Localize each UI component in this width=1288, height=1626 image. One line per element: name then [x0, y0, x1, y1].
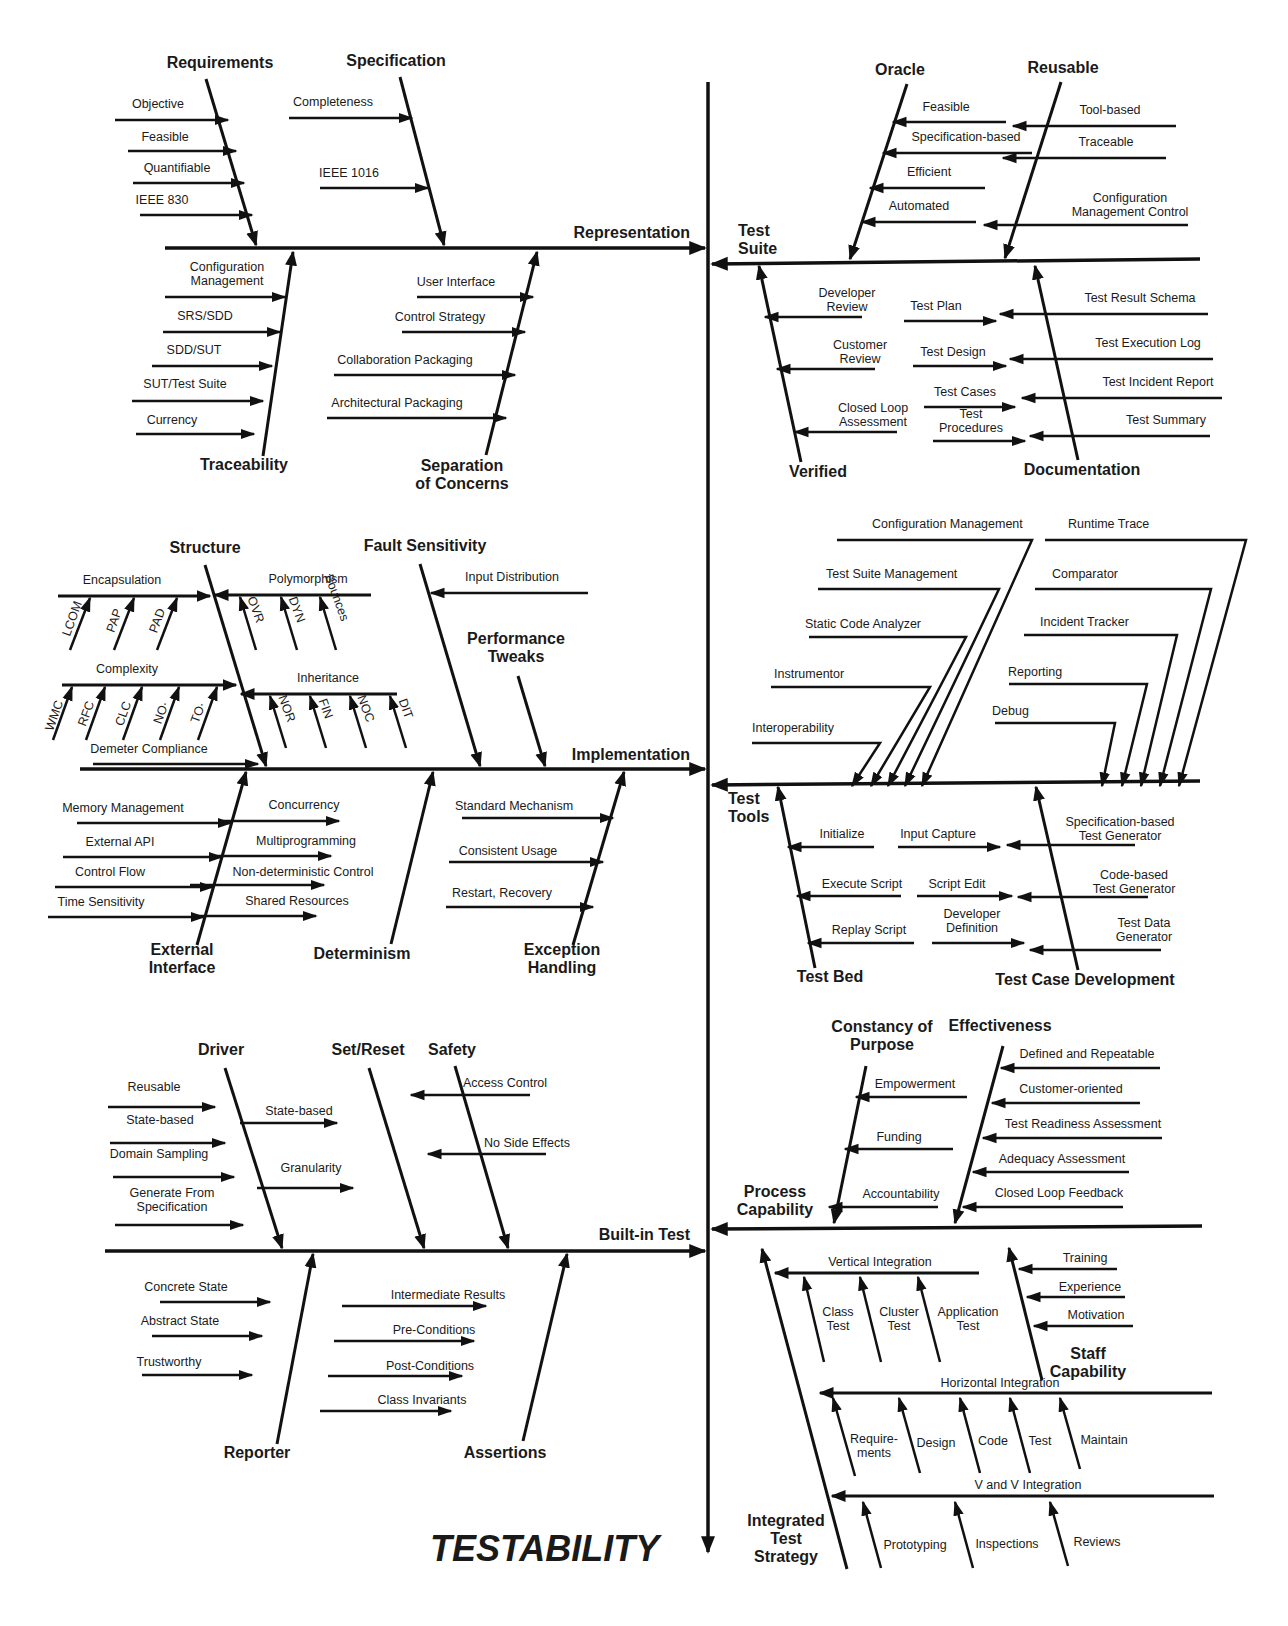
integration-twig-label: Require-ments	[850, 1432, 898, 1460]
main-bone-label-process-capability: ProcessCapability	[737, 1183, 814, 1218]
rib-label: Funding	[876, 1130, 921, 1144]
rib-label: Standard Mechanism	[455, 799, 573, 813]
bone-label-documentation: Documentation	[1024, 461, 1140, 478]
bone-fault-sensitivity	[420, 564, 480, 766]
tool-label: Debug	[992, 704, 1029, 718]
rib-label: Tool-based	[1079, 103, 1140, 117]
rib-label: Initialize	[819, 827, 864, 841]
bone-label-specification: Specification	[346, 52, 446, 69]
bone-label-determinism: Determinism	[314, 945, 411, 962]
rib-label: Closed LoopAssessment	[838, 401, 908, 429]
rib-label: Test Design	[920, 345, 985, 359]
bone-label-verified: Verified	[789, 463, 847, 480]
rib-label: Objective	[132, 97, 184, 111]
metric-twigs: LCOMPAPPADOVRDYNBouncesWMCRFCCLCNO·TO·NO…	[42, 572, 416, 748]
bone-constancy-of-purpose	[834, 1066, 866, 1223]
integration-twig-label: Reviews	[1073, 1535, 1120, 1549]
integration-twig-arrow	[960, 1398, 980, 1473]
rib-label: User Interface	[417, 275, 496, 289]
rib-label: Input Capture	[900, 827, 976, 841]
bone-reporter	[277, 1254, 313, 1444]
sub-bone-label-encapsulation: Encapsulation	[83, 573, 162, 587]
rib-label: State-based	[126, 1113, 193, 1127]
integration-twig-arrow	[1060, 1398, 1080, 1469]
metric-twig-label: DIT	[396, 697, 416, 721]
bone-label-set-reset: Set/Reset	[332, 1041, 406, 1058]
bone-label-test-case-development: Test Case Development	[995, 971, 1175, 988]
rib-label: Test DataGenerator	[1116, 916, 1172, 944]
rib-label: Test Result Schema	[1084, 291, 1195, 305]
integration-twig-arrow	[804, 1277, 824, 1362]
rib-label: Post-Conditions	[386, 1359, 474, 1373]
rib-label: Test Execution Log	[1095, 336, 1201, 350]
rib-label: Concrete State	[144, 1280, 227, 1294]
rib-label: Reusable	[128, 1080, 181, 1094]
bone-label-fault-sensitivity: Fault Sensitivity	[364, 537, 487, 554]
rib-label: ConfigurationManagement	[190, 260, 264, 288]
metric-twig-label: NOR	[275, 693, 298, 724]
bone-test-bed	[778, 787, 815, 968]
integration-twig-label: ClusterTest	[879, 1305, 919, 1333]
integration-twig-arrow	[1050, 1502, 1068, 1566]
tool-elbow-arrow	[995, 723, 1115, 786]
rib-label: Pre-Conditions	[393, 1323, 476, 1337]
rib-label: Feasible	[922, 100, 969, 114]
rib-label: Script Edit	[929, 877, 986, 891]
bone-reusable	[1005, 82, 1061, 258]
rib-label: Memory Management	[62, 801, 184, 815]
tool-label: Interoperability	[752, 721, 835, 735]
bone-assertions	[523, 1254, 567, 1441]
tool-label: Comparator	[1052, 567, 1118, 581]
rib-label: Accountability	[862, 1187, 940, 1201]
rib-label: External API	[86, 835, 155, 849]
tool-label: Incident Tracker	[1040, 615, 1129, 629]
sub-bone-label-complexity: Complexity	[96, 662, 159, 676]
rib-label: Test Plan	[910, 299, 961, 313]
rib-label: IEEE 1016	[319, 166, 379, 180]
rib-label: TestProcedures	[939, 407, 1003, 435]
rib-label: Domain Sampling	[110, 1147, 209, 1161]
main-bones: RepresentationTestSuiteImplementationTes…	[80, 222, 1202, 1251]
rib-label: Test Incident Report	[1102, 375, 1214, 389]
bone-external-interface	[197, 772, 246, 945]
main-bone-test-tools	[712, 781, 1200, 785]
rib-label: Generate FromSpecification	[130, 1186, 215, 1214]
bone-label-separation-of-concerns: Separationof Concerns	[415, 457, 508, 492]
tool-elbow-arrow	[752, 743, 880, 786]
rib-label: CustomerReview	[833, 338, 887, 366]
sub-bone-label-horizontal-integration: Horizontal Integration	[941, 1376, 1060, 1390]
rib-label: SDD/SUT	[167, 343, 222, 357]
rib-label: Test Readiness Assessment	[1005, 1117, 1162, 1131]
tool-label: Configuration Management	[872, 517, 1023, 531]
main-bone-label-test-tools: TestTools	[728, 790, 770, 825]
bone-label-integrated-test-strategy: IntegratedTestStrategy	[747, 1512, 824, 1565]
bone-label-safety: Safety	[428, 1041, 476, 1058]
main-bone-test-suite	[712, 259, 1200, 264]
tool-label: Instrumentor	[774, 667, 844, 681]
rib-label: Shared Resources	[245, 894, 349, 908]
testability-fishbone-diagram: RepresentationTestSuiteImplementationTes…	[0, 0, 1288, 1626]
bone-exception-handling	[573, 772, 624, 945]
rib-label: State-based	[265, 1104, 332, 1118]
bone-label-reporter: Reporter	[224, 1444, 291, 1461]
integration-twig-arrow	[860, 1277, 881, 1362]
bone-label-structure: Structure	[169, 539, 240, 556]
bone-label-constancy-of-purpose: Constancy ofPurpose	[831, 1018, 933, 1053]
rib-label: SRS/SDD	[177, 309, 233, 323]
bone-label-assertions: Assertions	[464, 1444, 547, 1461]
bone-specification	[400, 77, 444, 245]
bone-label-reusable: Reusable	[1027, 59, 1098, 76]
rib-label: No Side Effects	[484, 1136, 570, 1150]
bone-driver	[225, 1068, 282, 1248]
rib-label: Control Strategy	[395, 310, 486, 324]
bone-documentation	[1035, 266, 1078, 460]
rib-label: Adequacy Assessment	[999, 1152, 1126, 1166]
rib-label: DeveloperDefinition	[944, 907, 1001, 935]
rib-label: Automated	[889, 199, 950, 213]
rib-label: DeveloperReview	[819, 286, 876, 314]
rib-label: Granularity	[280, 1161, 342, 1175]
bone-determinism	[391, 772, 433, 944]
bone-label-test-bed: Test Bed	[797, 968, 863, 985]
rib-label: Defined and Repeatable	[1020, 1047, 1155, 1061]
rib-label: Class Invariants	[378, 1393, 467, 1407]
